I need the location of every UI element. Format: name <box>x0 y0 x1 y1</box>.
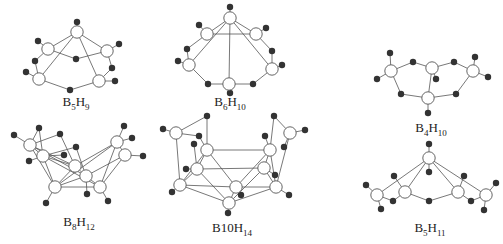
bond <box>429 158 458 192</box>
bond <box>180 185 236 187</box>
hydrogen-atom <box>84 191 90 197</box>
hydrogen-atom <box>184 46 190 52</box>
hydrogen-atom <box>485 74 491 80</box>
boron-atom <box>266 63 278 75</box>
hydrogen-atom <box>472 54 478 60</box>
hydrogen-atom <box>398 91 404 97</box>
bond <box>180 185 229 203</box>
bond <box>100 142 117 187</box>
boron-atom <box>24 139 36 151</box>
boron-atom <box>250 28 262 40</box>
hydrogen-atom <box>391 173 397 179</box>
hydrogen-atom <box>363 182 369 188</box>
molecule-b4h10 <box>374 50 491 116</box>
hydrogen-atom <box>26 158 32 164</box>
boron-atom <box>223 197 235 209</box>
bond <box>229 18 230 84</box>
molecule-label-b10h14: B10H14 <box>212 220 252 238</box>
bond <box>39 32 77 79</box>
molecule-b6h10 <box>175 4 285 96</box>
boron-atom <box>101 45 113 57</box>
hydrogen-atom <box>481 207 487 213</box>
hydrogen-atom <box>11 132 17 138</box>
hydrogen-atom <box>410 59 416 65</box>
boron-atom <box>230 181 242 193</box>
boron-atom <box>467 65 479 77</box>
hydrogen-atom <box>425 110 431 116</box>
bond <box>276 133 290 187</box>
boron-atom <box>94 181 106 193</box>
boron-atom <box>183 59 195 71</box>
hydrogen-atom <box>35 38 41 44</box>
bond <box>197 168 264 169</box>
boron-atom <box>452 186 464 198</box>
hydrogen-atom <box>129 135 135 141</box>
hydrogen-atom <box>468 198 474 204</box>
hydrogen-atom <box>461 173 467 179</box>
hydrogen-atom <box>451 59 457 65</box>
hydrogen-atom <box>302 127 308 133</box>
boron-atom <box>69 160 81 172</box>
hydrogen-atom <box>204 113 210 119</box>
boron-atom <box>201 144 213 156</box>
hydrogen-atom <box>493 180 499 186</box>
hydrogen-atom <box>121 123 127 129</box>
boron-atom <box>426 62 438 74</box>
boron-atom <box>80 170 92 182</box>
boron-atom <box>37 150 49 162</box>
hydrogen-atom <box>205 81 211 87</box>
boron-atom <box>71 26 83 38</box>
hydrogen-atom <box>23 69 29 75</box>
hydrogen-atom <box>73 56 79 62</box>
molecule-b10h14 <box>160 113 308 216</box>
hydrogen-atom <box>374 76 380 82</box>
molecule-label-b6h10: B6H10 <box>214 94 246 112</box>
boron-atom <box>201 28 213 40</box>
boron-atom <box>423 152 435 164</box>
hydrogen-atom <box>74 19 80 25</box>
boron-atom <box>170 127 182 139</box>
hydrogen-atom <box>105 198 111 204</box>
boron-atom <box>223 78 235 90</box>
hydrogen-atom <box>390 198 396 204</box>
molecule-label-b4h10: B4H10 <box>415 120 447 138</box>
molecule-b5h11 <box>363 141 499 213</box>
bond <box>176 133 180 185</box>
boron-atom <box>270 181 282 193</box>
hydrogen-atom <box>109 65 115 71</box>
hydrogen-atom <box>140 153 146 159</box>
boron-atom <box>422 92 434 104</box>
hydrogen-atom <box>191 141 197 147</box>
boron-atom <box>49 181 61 193</box>
hydrogen-atom <box>269 48 275 54</box>
hydrogen-atom <box>426 169 432 175</box>
boron-atom <box>385 65 397 77</box>
hydrogen-atom <box>250 81 256 87</box>
molecule-label-b8h12: B8H12 <box>63 214 95 232</box>
hydrogen-atom <box>57 131 63 137</box>
hydrogen-atom <box>73 144 79 150</box>
hydrogen-atom <box>453 91 459 97</box>
boron-atom <box>258 162 270 174</box>
hydrogen-atom <box>169 189 175 195</box>
hydrogen-atom <box>116 41 122 47</box>
hydrogen-atom <box>279 62 285 68</box>
hydrogen-atom <box>433 76 439 82</box>
hydrogen-atom <box>61 152 67 158</box>
hydrogen-atom <box>281 144 287 150</box>
molecule-b5h9 <box>23 19 122 93</box>
hydrogen-atom <box>183 166 189 172</box>
hydrogen-atom <box>271 113 277 119</box>
hydrogen-atom <box>286 192 292 198</box>
hydrogen-atom <box>262 133 268 139</box>
hydrogen-atom <box>36 125 42 131</box>
hydrogen-atom <box>196 133 202 139</box>
hydrogen-atom <box>32 58 38 64</box>
boron-atom <box>111 136 123 148</box>
molecule-label-b5h9: B5H9 <box>62 94 89 112</box>
hydrogen-atom <box>227 4 233 10</box>
boron-atom <box>119 149 131 161</box>
hydrogen-atom <box>112 78 118 84</box>
boron-atom <box>224 12 236 24</box>
boron-atom <box>42 43 54 55</box>
